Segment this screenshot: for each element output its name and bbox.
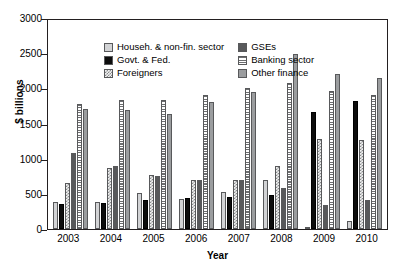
bar — [377, 78, 382, 229]
bar — [125, 110, 130, 229]
bar — [281, 188, 286, 229]
bar — [371, 95, 376, 229]
bar — [347, 221, 352, 229]
bar — [335, 74, 340, 229]
bar — [167, 114, 172, 229]
legend-item: Banking sector — [238, 54, 314, 66]
bar — [353, 101, 358, 229]
legend-label: Foreigners — [117, 67, 162, 79]
legend-label: Govt. & Fed. — [117, 54, 170, 66]
bar — [179, 199, 184, 229]
bar — [155, 176, 160, 229]
bar — [65, 183, 70, 229]
bar — [221, 192, 226, 229]
legend-label: Househ. & non-fin. sector — [117, 41, 224, 53]
bar — [365, 200, 370, 229]
bar-group — [343, 20, 385, 229]
legend-swatch-icon — [104, 43, 113, 52]
bar — [161, 100, 166, 229]
bar — [83, 109, 88, 229]
bar — [113, 166, 118, 229]
x-tick-label: 2004 — [90, 233, 133, 247]
legend-column-1: Househ. & non-fin. sectorGovt. & Fed.For… — [104, 41, 224, 79]
y-tick-label: 1500 — [8, 120, 42, 130]
legend-swatch-icon — [104, 56, 113, 65]
bar-group — [50, 20, 92, 229]
y-tick-label: 2000 — [8, 84, 42, 94]
chart-legend: Househ. & non-fin. sectorGovt. & Fed.For… — [104, 41, 314, 79]
bar — [77, 104, 82, 229]
bar — [185, 198, 190, 229]
bar — [275, 166, 280, 229]
y-tick-label: 1000 — [8, 155, 42, 165]
bar — [143, 200, 148, 229]
legend-swatch-icon — [238, 56, 247, 65]
legend-label: Banking sector — [251, 54, 314, 66]
x-tick-label: 2007 — [218, 233, 261, 247]
bar — [149, 175, 154, 229]
bar — [101, 203, 106, 229]
bar — [197, 180, 202, 229]
bar — [359, 140, 364, 229]
x-axis-title: Year — [47, 250, 388, 261]
x-tick-label: 2005 — [132, 233, 175, 247]
y-tick-label: 0 — [8, 225, 42, 235]
bar — [107, 168, 112, 229]
bar — [317, 139, 322, 229]
legend-item: Househ. & non-fin. sector — [104, 41, 224, 53]
y-tick-label: 3000 — [8, 14, 42, 24]
legend-item: Govt. & Fed. — [104, 54, 224, 66]
bar — [209, 102, 214, 229]
x-tick-label: 2008 — [260, 233, 303, 247]
legend-swatch-icon — [104, 69, 113, 78]
legend-label: Other finance — [251, 67, 308, 79]
y-tick-mark — [41, 230, 47, 231]
y-tick-label: 2500 — [8, 49, 42, 59]
bar — [191, 180, 196, 229]
bar — [53, 202, 58, 229]
bar — [323, 205, 328, 229]
bar — [119, 100, 124, 229]
bar — [71, 153, 76, 229]
bar — [137, 193, 142, 229]
legend-label: GSEs — [251, 41, 276, 53]
legend-swatch-icon — [238, 69, 247, 78]
bar — [263, 180, 268, 229]
y-axis-tick-labels: 300025002000150010005000 — [6, 0, 42, 272]
bar — [269, 195, 274, 229]
bar-chart: $ billions 300025002000150010005000 Hous… — [0, 0, 396, 272]
bar — [251, 92, 256, 229]
bar — [203, 95, 208, 229]
bar — [329, 91, 334, 229]
bar — [59, 204, 64, 229]
x-tick-label: 2010 — [345, 233, 388, 247]
bar — [227, 197, 232, 229]
legend-item: Foreigners — [104, 67, 224, 79]
x-axis-tick-labels: 20032004200520062007200820092010 — [47, 233, 388, 247]
legend-item: Other finance — [238, 67, 314, 79]
legend-item: GSEs — [238, 41, 314, 53]
x-tick-label: 2003 — [47, 233, 90, 247]
legend-column-2: GSEsBanking sectorOther finance — [238, 41, 314, 79]
x-tick-label: 2009 — [303, 233, 346, 247]
bar — [305, 227, 310, 229]
bar — [311, 112, 316, 229]
x-tick-label: 2006 — [175, 233, 218, 247]
bar — [293, 54, 298, 229]
legend-swatch-icon — [238, 43, 247, 52]
bar — [239, 180, 244, 229]
y-tick-label: 500 — [8, 190, 42, 200]
plot-area: Househ. & non-fin. sectorGovt. & Fed.For… — [47, 19, 388, 230]
bar — [245, 88, 250, 229]
bar — [95, 202, 100, 229]
bar — [233, 180, 238, 229]
bar — [287, 83, 292, 229]
